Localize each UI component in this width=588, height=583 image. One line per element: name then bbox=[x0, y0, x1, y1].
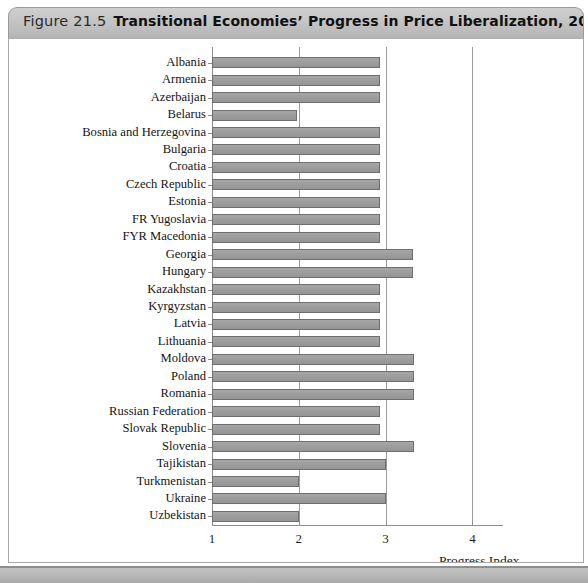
chart-frame: 1234Progress IndexAlbaniaArmeniaAzerbaij… bbox=[8, 38, 584, 563]
category-label: Hungary bbox=[10, 265, 206, 277]
category-label: Romania bbox=[10, 387, 206, 399]
category-label: Czech Republic bbox=[10, 178, 206, 190]
bar bbox=[212, 389, 414, 400]
category-label: Kazakhstan bbox=[10, 283, 206, 295]
category-label: Russian Federation bbox=[10, 405, 206, 417]
x-tick-mark-2 bbox=[299, 521, 300, 526]
category-label: Belarus bbox=[10, 108, 206, 120]
category-label: Bulgaria bbox=[10, 143, 206, 155]
category-label: Latvia bbox=[10, 317, 206, 329]
category-label: Georgia bbox=[10, 248, 206, 260]
x-tick-label-2: 2 bbox=[289, 531, 309, 547]
bar bbox=[212, 424, 380, 435]
category-label: Turkmenistan bbox=[10, 475, 206, 487]
figure-title-inner: Figure 21.5Transitional Economies’ Progr… bbox=[23, 12, 584, 30]
bar bbox=[212, 354, 414, 365]
x-tick-label-1: 1 bbox=[202, 531, 222, 547]
bar bbox=[212, 162, 380, 173]
page-bottom-strip bbox=[0, 566, 588, 583]
bar bbox=[212, 459, 386, 470]
bar bbox=[212, 249, 413, 260]
bar bbox=[212, 336, 380, 347]
bar bbox=[212, 476, 299, 487]
category-label: Croatia bbox=[10, 160, 206, 172]
x-tick-label-3: 3 bbox=[376, 531, 396, 547]
bar bbox=[212, 232, 380, 243]
category-label: Bosnia and Herzegovina bbox=[10, 126, 206, 138]
category-label: Moldova bbox=[10, 352, 206, 364]
figure-title-bar: Figure 21.5Transitional Economies’ Progr… bbox=[8, 7, 584, 38]
category-label: FR Yugoslavia bbox=[10, 213, 206, 225]
bar bbox=[212, 75, 380, 86]
gridline-x-4 bbox=[472, 47, 473, 525]
bar bbox=[212, 493, 386, 504]
figure-number: Figure 21.5 bbox=[23, 13, 106, 29]
bar bbox=[212, 441, 414, 452]
bar bbox=[212, 179, 380, 190]
category-label: Tajikistan bbox=[10, 457, 206, 469]
bar bbox=[212, 127, 380, 138]
x-tick-mark-4 bbox=[472, 521, 473, 526]
bar bbox=[212, 144, 380, 155]
bar bbox=[212, 267, 413, 278]
bar bbox=[212, 214, 380, 225]
category-label: Albania bbox=[10, 56, 206, 68]
bar bbox=[212, 406, 380, 417]
bar bbox=[212, 57, 380, 68]
category-label: Lithuania bbox=[10, 335, 206, 347]
category-label: Slovak Republic bbox=[10, 422, 206, 434]
category-label: Azerbaijan bbox=[10, 91, 206, 103]
bar bbox=[212, 371, 414, 382]
bar bbox=[212, 511, 299, 522]
x-axis-title: Progress Index bbox=[439, 553, 520, 563]
category-label: Ukraine bbox=[10, 492, 206, 504]
bar bbox=[212, 92, 380, 103]
category-label: Estonia bbox=[10, 195, 206, 207]
gridline-x-3 bbox=[386, 47, 387, 525]
bar-chart-plot: 1234Progress IndexAlbaniaArmeniaAzerbaij… bbox=[9, 39, 583, 562]
bar bbox=[212, 197, 380, 208]
category-label: FYR Macedonia bbox=[10, 230, 206, 242]
category-label: Armenia bbox=[10, 73, 206, 85]
bar bbox=[212, 302, 380, 313]
bar bbox=[212, 284, 380, 295]
bar bbox=[212, 110, 297, 121]
x-tick-label-4: 4 bbox=[462, 531, 482, 547]
category-label: Poland bbox=[10, 370, 206, 382]
x-axis-line bbox=[212, 525, 503, 526]
x-tick-mark-3 bbox=[386, 521, 387, 526]
category-label: Slovenia bbox=[10, 440, 206, 452]
bar bbox=[212, 319, 380, 330]
figure-root: Figure 21.5Transitional Economies’ Progr… bbox=[0, 0, 588, 583]
category-label: Kyrgyzstan bbox=[10, 300, 206, 312]
page-title: Transitional Economies’ Progress in Pric… bbox=[113, 13, 584, 29]
category-label: Uzbekistan bbox=[10, 509, 206, 521]
